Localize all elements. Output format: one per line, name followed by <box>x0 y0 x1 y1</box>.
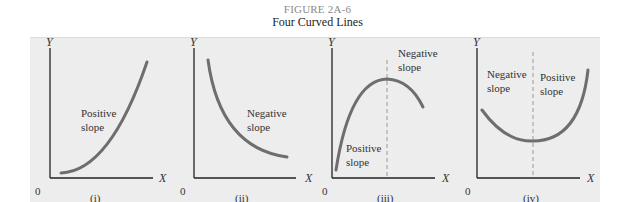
annotation-slope: slope <box>540 85 563 97</box>
annotation-slope: slope <box>247 121 270 133</box>
x-axis-label: X <box>158 171 167 185</box>
annotation-positive: Positive <box>81 107 117 119</box>
figure-number: FIGURE 2A-6 <box>0 3 635 15</box>
annotation-positive: Positive <box>346 142 382 154</box>
graph-iv: Y X 0 Negative slope Positive slope (iv) <box>465 38 595 202</box>
annotation-negative: Negative <box>398 47 438 59</box>
origin-label: 0 <box>180 185 186 197</box>
x-axis-label: X <box>441 171 450 185</box>
annotation-positive: Positive <box>540 71 576 83</box>
four-curves-diagram: Y X 0 Positive slope (i) Y X 0 Negative … <box>30 38 600 202</box>
y-axis-label: Y <box>190 38 198 49</box>
figure-panel: Y X 0 Positive slope (i) Y X 0 Negative … <box>30 37 600 202</box>
annotation-negative: Negative <box>487 68 527 80</box>
x-axis-label: X <box>304 171 313 185</box>
annotation-slope: slope <box>487 82 510 94</box>
graph-ii: Y X 0 Negative slope (ii) <box>180 38 313 202</box>
annotation-slope: slope <box>346 156 369 168</box>
graph-iii: Y X 0 Negative slope Positive slope (iii… <box>322 38 450 202</box>
y-axis-label: Y <box>46 38 54 49</box>
graph-i: Y X 0 Positive slope (i) <box>35 38 167 202</box>
x-axis-label: X <box>586 171 595 185</box>
origin-label: 0 <box>322 185 328 197</box>
caption-iv: (iv) <box>523 192 539 202</box>
annotation-slope: slope <box>398 61 421 73</box>
figure-title: Four Curved Lines <box>0 15 635 30</box>
caption-iii: (iii) <box>377 192 394 202</box>
origin-label: 0 <box>35 185 41 197</box>
caption-i: (i) <box>90 192 101 202</box>
origin-label: 0 <box>465 185 471 197</box>
y-axis-label: Y <box>328 38 336 49</box>
caption-ii: (ii) <box>235 192 249 202</box>
annotation-slope: slope <box>81 121 104 133</box>
annotation-negative: Negative <box>247 107 287 119</box>
y-axis-label: Y <box>473 38 481 49</box>
